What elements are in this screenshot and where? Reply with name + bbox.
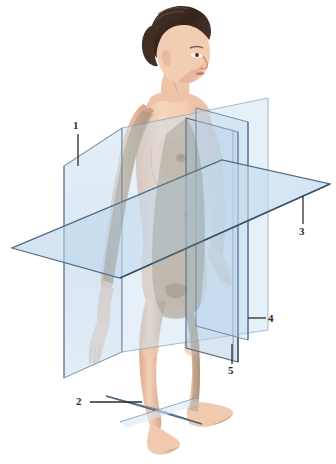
label-2: 2 (76, 396, 82, 407)
label-1: 1 (73, 120, 79, 131)
mouth (196, 72, 205, 75)
body-planes-illustration (0, 0, 336, 464)
eye (195, 53, 199, 57)
right-foot (147, 424, 180, 455)
head (142, 6, 211, 84)
illustration-canvas: 1 2 3 4 5 (0, 0, 336, 464)
label-3: 3 (299, 226, 305, 237)
label-5: 5 (228, 365, 234, 376)
label-4: 4 (268, 313, 274, 324)
